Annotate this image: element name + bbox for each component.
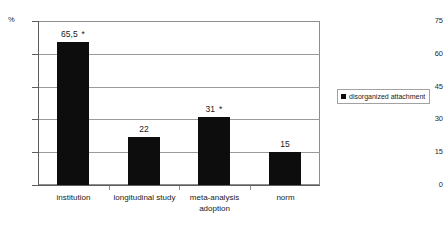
bar bbox=[57, 42, 89, 185]
significance-marker: * bbox=[78, 29, 85, 39]
x-axis-tick bbox=[109, 186, 110, 190]
bar-value-label: 15 bbox=[247, 140, 323, 149]
legend: disorganized attachment bbox=[337, 89, 430, 104]
y-axis-unit-label: % bbox=[8, 15, 15, 24]
bar-value-label: 22 bbox=[106, 125, 182, 134]
x-axis-category-label: longitudinal study bbox=[109, 192, 180, 203]
x-axis-category-label: institution bbox=[38, 192, 109, 203]
bar bbox=[269, 152, 301, 185]
x-axis-tick bbox=[179, 186, 180, 190]
y-axis-tick-label: 0 bbox=[417, 181, 443, 189]
y-axis-tick-label: 60 bbox=[417, 50, 443, 58]
bar-value-label: 31* bbox=[176, 105, 252, 114]
y-axis-tick-label: 15 bbox=[417, 148, 443, 156]
legend-swatch-icon bbox=[341, 94, 346, 99]
y-axis-line bbox=[38, 21, 39, 186]
x-axis-tick bbox=[250, 186, 251, 190]
y-axis-tick-label: 75 bbox=[417, 17, 443, 25]
y-axis-tick-label: 30 bbox=[417, 115, 443, 123]
bar bbox=[128, 137, 160, 185]
x-axis-category-label: meta-analysisadoption bbox=[179, 192, 250, 214]
bar-value-label: 65,5* bbox=[35, 30, 111, 39]
bar-chart-figure: % 01530456075 65,5*2231*15 institutionlo… bbox=[0, 0, 443, 227]
significance-marker: * bbox=[215, 104, 222, 114]
bar bbox=[198, 117, 230, 185]
x-axis-category-label: norm bbox=[250, 192, 321, 203]
legend-label: disorganized attachment bbox=[349, 93, 425, 100]
